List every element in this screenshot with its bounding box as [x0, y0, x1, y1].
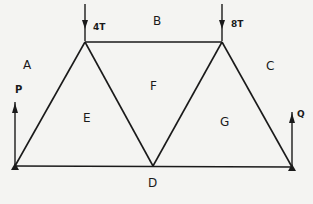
diagonal-right [153, 42, 222, 166]
region-label-b: B [153, 14, 161, 28]
truss-members [15, 42, 292, 167]
arrowhead-down-icon [82, 20, 88, 29]
arrowhead-down-icon [219, 20, 225, 29]
region-label-a: A [23, 58, 32, 72]
region-label-c: C [266, 59, 274, 73]
region-label-e: E [83, 111, 91, 125]
arrowhead-up-icon [12, 103, 18, 113]
reaction-label-q: Q [297, 109, 305, 119]
reaction-arrows [12, 102, 295, 166]
truss-diagram: 4T 8T P Q A B C D E F G [0, 0, 313, 204]
load-label-8t: 8T [231, 19, 244, 29]
reaction-label-p: P [15, 84, 22, 95]
diagonal-left [85, 42, 153, 166]
arrowhead-up-icon [289, 113, 295, 123]
region-label-g: G [220, 115, 229, 129]
region-label-f: F [150, 79, 157, 93]
region-label-d: D [148, 176, 157, 190]
right-end-member [222, 42, 292, 167]
load-label-4t: 4T [93, 22, 106, 32]
